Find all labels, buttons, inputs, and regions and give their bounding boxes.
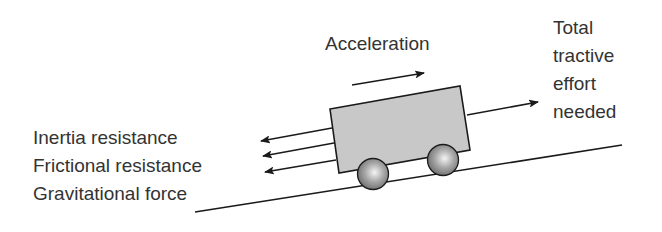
tractive-line-2: tractive: [553, 42, 616, 70]
tractive-effort-arrow: [467, 102, 538, 115]
acceleration-label: Acceleration: [325, 33, 430, 54]
resistance-labels: Inertia resistance Frictional resistance…: [33, 124, 202, 208]
frictional-resistance-label: Frictional resistance: [33, 152, 202, 180]
inertia-arrow: [261, 128, 332, 141]
inertia-resistance-label: Inertia resistance: [33, 124, 202, 152]
frictional-arrow: [263, 143, 334, 156]
tractive-line-1: Total: [553, 14, 616, 42]
tractive-effort-label: Total tractive effort needed: [553, 14, 616, 126]
gravitational-force-label: Gravitational force: [33, 180, 202, 208]
tractive-line-3: effort: [553, 70, 616, 98]
acceleration-arrow: [352, 73, 424, 85]
gravitational-arrow: [265, 160, 336, 172]
wheel-front: [428, 145, 459, 176]
tractive-line-4: needed: [553, 98, 616, 126]
wheel-rear: [358, 159, 389, 190]
